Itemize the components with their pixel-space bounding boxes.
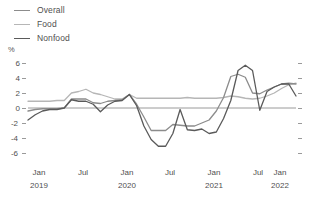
x-tick-month-2: Jan <box>110 168 144 177</box>
x-tick-year-2020: 2020 <box>110 181 144 190</box>
x-tick-month-1: Jul <box>66 168 100 177</box>
x-tick-year-2021: 2021 <box>197 181 231 190</box>
x-tick-month-4: Jan <box>197 168 231 177</box>
x-tick-year-2019: 2019 <box>22 181 56 190</box>
x-tick-month-0: Jan <box>22 168 56 177</box>
x-tick-month-3: Jul <box>153 168 187 177</box>
x-tick-month-6: Jan <box>263 168 297 177</box>
x-tick-year-2022: 2022 <box>263 181 297 190</box>
series-line-nonfood <box>28 65 296 146</box>
series-line-overall <box>28 74 296 130</box>
chart-root: Overall Food Nonfood % 6 4 2 0 -2 -4 -6 <box>0 0 309 201</box>
